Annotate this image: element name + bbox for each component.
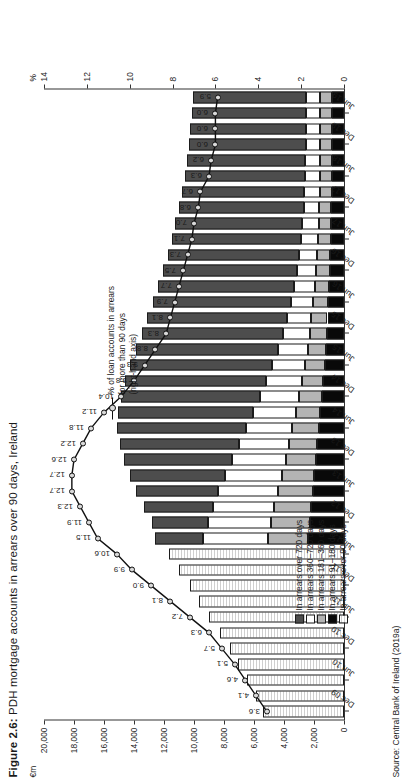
legend-item-over90: In arrears over 90 days	[338, 519, 348, 623]
line-point-marker	[142, 362, 148, 368]
x-axis-tick	[345, 490, 349, 491]
line-point-label: 6.0	[197, 139, 208, 148]
line-point-label: 12.6	[51, 454, 67, 463]
line-point-marker	[208, 157, 214, 163]
figure-source: Source: Central Bank of Ireland (2019a)	[391, 625, 401, 777]
line-point-marker	[232, 661, 238, 667]
y-axis-left-tick-label: 2,000	[309, 727, 319, 777]
x-axis-tick	[345, 269, 349, 270]
line-point-label: 6.8	[180, 202, 191, 211]
y-axis-left-tick	[284, 720, 285, 724]
x-axis-tick	[345, 143, 349, 144]
line-point-label: 5.1	[217, 658, 228, 667]
line-point-label: 9.9	[114, 564, 125, 573]
y-axis-left-tick-label: 6,000	[249, 727, 259, 777]
line-point-marker	[219, 645, 225, 651]
y-axis-right-tick-label: 2	[296, 76, 306, 81]
line-series-legend-label: % of loan accounts in arrears for more t…	[106, 286, 139, 394]
y-axis-left-tick-label: 14,000	[129, 727, 139, 777]
line-point-label: 10.6	[94, 548, 110, 557]
y-axis-left-tick	[44, 720, 45, 724]
y-axis-left-tick	[344, 720, 345, 724]
y-axis-left-unit: €m	[28, 765, 38, 777]
legend-label-over720: In arrears over 720 days	[294, 519, 304, 610]
y-axis-right-line	[44, 88, 344, 89]
line-point-marker	[129, 566, 135, 572]
y-axis-right-tick	[173, 84, 174, 88]
x-axis-tick	[345, 175, 349, 176]
y-axis-left-tick-label: 8,000	[219, 727, 229, 777]
line-point-marker	[77, 503, 83, 509]
legend-label-d91_180: In arrears 91–180 days	[327, 524, 337, 610]
x-axis-tick	[345, 458, 349, 459]
y-axis-left-tick-label: 18,000	[69, 727, 79, 777]
legend-swatch-over720	[295, 614, 304, 623]
legend-swatch-d360_720	[306, 614, 315, 623]
line-point-marker	[172, 299, 178, 305]
y-axis-left-tick-label: 4,000	[279, 727, 289, 777]
line-point-marker	[215, 94, 221, 100]
line-point-marker	[80, 440, 86, 446]
line-point-marker	[86, 519, 92, 525]
line-point-label: 8.1	[152, 312, 163, 321]
rotated-page-wrapper: Figure 2.6: PDH mortgage accounts in arr…	[0, 0, 408, 783]
legend-label-d360_720: In arrears 360–720 days	[305, 519, 315, 610]
chart-legend: In arrears over 720 daysIn arrears 360–7…	[294, 519, 349, 623]
y-axis-right-tick	[258, 84, 259, 88]
line-point-label: 12.7	[49, 485, 65, 494]
line-point-marker	[187, 614, 193, 620]
legend-swatch-d91_180	[328, 614, 337, 623]
y-axis-left-tick	[224, 720, 225, 724]
line-point-label: 6.3	[191, 170, 202, 179]
legend-swatch-d181_360	[317, 614, 326, 623]
chart-plot-area: 3.64.14.65.15.76.37.28.19.09.910.611.511…	[44, 89, 344, 719]
line-point-label: 6.0	[197, 107, 208, 116]
line-point-marker	[212, 125, 218, 131]
line-point-marker	[176, 283, 182, 289]
line-point-marker	[197, 188, 203, 194]
x-axis-tick	[345, 112, 349, 113]
y-axis-right-tick-label: 0	[339, 76, 349, 81]
y-axis-right-tick	[130, 84, 131, 88]
y-axis-left-tick-label: 10,000	[189, 727, 199, 777]
line-point-label: 11.5	[76, 532, 91, 541]
y-axis-right-unit: %	[28, 74, 38, 81]
y-axis-right-tick	[215, 84, 216, 88]
line-point-marker	[253, 692, 259, 698]
y-axis-left-tick	[194, 720, 195, 724]
line-point-marker	[189, 236, 195, 242]
line-point-label: 5.9	[199, 91, 210, 100]
line-point-label: 4.6	[227, 674, 238, 683]
line-point-label: 4.1	[238, 690, 249, 699]
line-point-marker	[152, 346, 158, 352]
line-point-label: 3.6	[249, 706, 260, 715]
y-axis-left-tick	[314, 720, 315, 724]
y-axis-right-tick-label: 4	[253, 76, 263, 81]
line-point-label: 7.1	[174, 233, 185, 242]
line-point-marker	[114, 551, 120, 557]
line-point-label: 7.7	[161, 280, 172, 289]
line-point-marker	[180, 267, 186, 273]
y-axis-left-tick-label: 20,000	[39, 727, 49, 777]
x-axis-tick	[345, 238, 349, 239]
legend-item-d181_360: In arrears 181–360 days	[316, 519, 326, 623]
line-point-marker	[195, 204, 201, 210]
y-axis-right-tick-label: 6	[210, 76, 220, 81]
line-point-label: 9.0	[133, 580, 144, 589]
legend-item-over720: In arrears over 720 days	[294, 519, 304, 623]
y-axis-left-tick	[254, 720, 255, 724]
line-point-label: 11.9	[67, 517, 82, 526]
line-point-marker	[206, 173, 212, 179]
line-point-label: 6.7	[182, 186, 193, 195]
x-axis-tick	[345, 710, 349, 711]
x-axis-tick	[345, 332, 349, 333]
line-point-marker	[212, 141, 218, 147]
y-axis-left-tick-label: 12,000	[159, 727, 169, 777]
line-point-label: 12.3	[58, 501, 74, 510]
figure-page: Figure 2.6: PDH mortgage accounts in arr…	[0, 0, 408, 783]
y-axis-left-tick	[104, 720, 105, 724]
line-series-legend: % of loan accounts in arrears for more t…	[106, 286, 139, 419]
line-point-marker	[264, 708, 270, 714]
line-point-label: 8.3	[148, 328, 159, 337]
line-point-label: 11.2	[82, 406, 97, 415]
